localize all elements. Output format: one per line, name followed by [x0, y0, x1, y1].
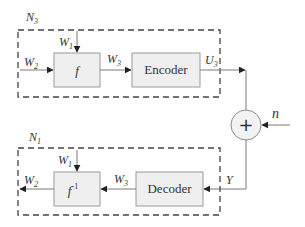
w3-label-tx: W3 [107, 52, 121, 68]
receiver-group-label: N1 [28, 130, 41, 146]
w1-label-rx: W1 [58, 153, 72, 169]
w2-label-rx: W2 [24, 173, 38, 189]
transmitter-group-label: N3 [25, 10, 38, 26]
w3-label-rx: W3 [114, 172, 128, 188]
y-label: Y [226, 173, 234, 187]
u3-label: U3 [205, 53, 218, 69]
plus-icon: + [238, 114, 253, 135]
decoder-label: Decoder [147, 181, 192, 196]
noise-label: n [272, 106, 279, 121]
w2-label-tx: W2 [24, 55, 38, 71]
w1-label-tx: W1 [59, 35, 73, 51]
encoder-label: Encoder [144, 62, 188, 77]
communication-system-diagram: N3 W2 W1 f W3 Encoder U3 + n Y N1 Decode… [0, 0, 305, 227]
